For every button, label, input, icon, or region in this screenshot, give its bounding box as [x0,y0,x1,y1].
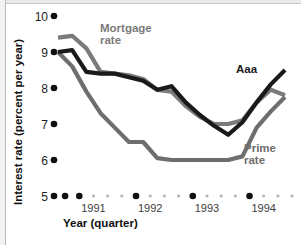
x-tick-dot-minor [290,194,293,197]
x-tick-dot-minor [262,194,265,197]
x-tick-dot-major [133,193,140,200]
x-tick-dot-minor [220,194,223,197]
x-tick-dot-minor [149,194,152,197]
y-tick-dot [51,85,58,92]
chart-figure: Interest rate (percent per year) 5678910… [0,0,301,245]
x-tick-dot-minor [163,194,166,197]
y-tick-dot [51,13,58,20]
series-label-prime-line2: rate [244,154,265,166]
x-tick-dot-minor [106,194,109,197]
y-tick-label: 8 [41,82,48,96]
y-tick-label: 6 [41,154,48,168]
x-tick-dot-minor [92,194,95,197]
x-tick-label: 1994 [251,202,275,214]
y-tick-dot [51,121,58,128]
x-tick-dot-major [246,193,253,200]
y-tick-label: 10 [35,10,49,24]
interest-rate-line-chart: Interest rate (percent per year) 5678910… [0,0,301,245]
x-tick-dot-minor [276,194,279,197]
series-label-prime: Prime rate [244,142,276,166]
y-axis-title-text: Interest rate (percent per year) [12,39,24,205]
x-tick-dot-minor [205,194,208,197]
x-tick-dot-major [189,193,196,200]
x-tick-dot-minor [234,194,237,197]
x-tick-dot-minor [177,194,180,197]
x-tick-label: 1992 [138,202,162,214]
y-tick-label: 7 [41,118,48,132]
y-tick-label: 5 [41,190,48,204]
x-axis-title-text: Year (quarter) [63,217,138,229]
series-label-prime-line1: Prime [244,142,276,154]
x-tick-label: 1991 [81,202,105,214]
x-axis-ticks [62,193,294,200]
y-tick-dot [51,193,58,200]
series-label-mortgage: Mortgage rate [100,22,152,46]
x-tick-label: 1993 [195,202,219,214]
series-label-aaa-line1: Aaa [236,63,258,75]
series-label-mortgage-line2: rate [100,34,121,46]
y-axis-ticks: 5678910 [35,10,58,204]
y-tick-dot [51,157,58,164]
y-axis-title: Interest rate (percent per year) [12,39,24,205]
y-tick-dot [51,49,58,56]
x-tick-dot-major [76,193,83,200]
y-tick-label: 9 [41,46,48,60]
x-tick-dot-minor [120,194,123,197]
series-label-mortgage-line1: Mortgage [100,22,152,34]
series-label-aaa: Aaa [236,63,258,75]
x-axis-tick-labels: 1991199219931994 [81,202,276,214]
x-tick-dot-major [62,193,69,200]
